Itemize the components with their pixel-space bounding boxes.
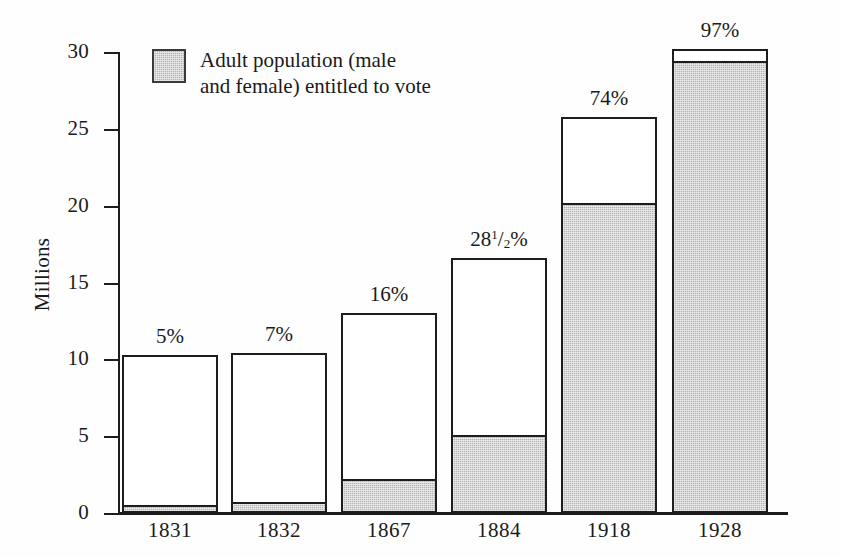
x-tick-label-1832: 1832	[231, 519, 327, 541]
legend-swatch-shaded-icon	[152, 49, 186, 83]
bar-percent-label-1831: 5%	[122, 325, 218, 347]
x-tick-label-1867: 1867	[341, 519, 437, 541]
bar-enfranchised-1918[interactable]	[561, 203, 657, 513]
bar-percent-label-1867: 16%	[341, 283, 437, 305]
bar-group-1832[interactable]: 7%	[231, 353, 327, 513]
legend-label: Adult population (male and female) entit…	[200, 47, 431, 99]
x-tick-label-1928: 1928	[672, 519, 768, 541]
bar-percent-label-1928: 97%	[672, 19, 768, 41]
bar-enfranchised-1831[interactable]	[122, 505, 218, 513]
bar-enfranchised-1928[interactable]	[672, 61, 768, 513]
bar-group-1918[interactable]: 74%	[561, 117, 657, 513]
bar-percent-label-1884: 281/2%	[451, 228, 547, 250]
bar-total-1832[interactable]	[231, 353, 327, 513]
bar-group-1867[interactable]: 16%	[341, 313, 437, 513]
x-tick-label-1918: 1918	[561, 519, 657, 541]
bar-group-1831[interactable]: 5%	[122, 355, 218, 513]
x-tick-label-1831: 1831	[122, 519, 218, 541]
bar-group-1884[interactable]: 281/2%	[451, 258, 547, 513]
x-tick-label-1884: 1884	[451, 519, 547, 541]
legend-label-line-2: and female) entitled to vote	[200, 73, 431, 99]
bar-total-1831[interactable]	[122, 355, 218, 513]
legend-label-line-1: Adult population (male	[200, 47, 431, 73]
bar-percent-label-1918: 74%	[561, 87, 657, 109]
bar-enfranchised-1884[interactable]	[451, 435, 547, 513]
chart-legend: Adult population (male and female) entit…	[152, 47, 431, 99]
bar-enfranchised-1832[interactable]	[231, 502, 327, 513]
bar-group-1928[interactable]: 97%	[672, 49, 768, 513]
bar-enfranchised-1867[interactable]	[341, 479, 437, 513]
bar-percent-label-1832: 7%	[231, 323, 327, 345]
bar-chart: Millions 051015202530 5%18317%183216%186…	[0, 0, 841, 557]
